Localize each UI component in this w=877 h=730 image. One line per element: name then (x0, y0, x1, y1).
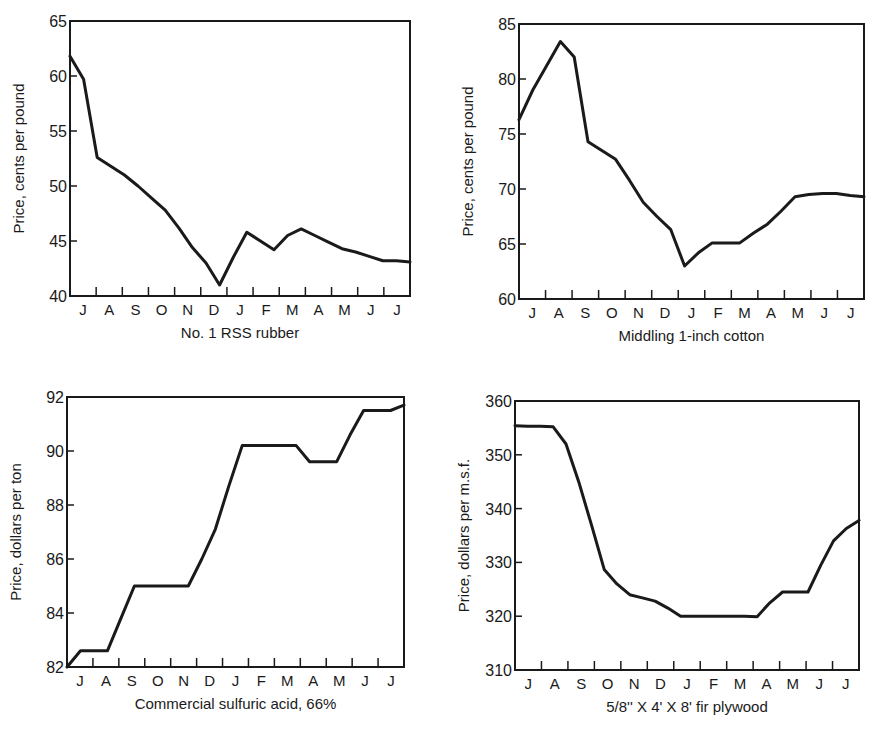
x-tick-label: O (602, 675, 614, 692)
price-line (515, 426, 859, 617)
x-tick-label: J (816, 675, 824, 692)
chart-group: JASONDJFMAMJJ310320330340350360Price, do… (455, 393, 859, 715)
y-axis-label: Price, dollars per m.s.f. (455, 459, 472, 612)
x-tick-label: J (683, 675, 691, 692)
chart-title: 5/8'' X 4' X 8' fir plywood (606, 698, 768, 715)
x-tick-label: D (655, 675, 666, 692)
y-tick-label: 340 (485, 501, 512, 518)
chart-plywood: JASONDJFMAMJJ310320330340350360Price, do… (0, 0, 877, 730)
x-tick-label: S (576, 675, 586, 692)
x-tick-label: N (629, 675, 640, 692)
y-tick-label: 320 (485, 608, 512, 625)
x-tick-label: F (709, 675, 718, 692)
plot-frame (515, 401, 859, 670)
x-tick-label: M (787, 675, 800, 692)
x-tick-label: A (761, 675, 771, 692)
x-tick-label: J (524, 675, 532, 692)
x-tick-label: J (842, 675, 850, 692)
x-tick-label: M (734, 675, 747, 692)
y-tick-label: 350 (485, 447, 512, 464)
y-tick-label: 330 (485, 554, 512, 571)
y-tick-label: 360 (485, 393, 512, 410)
x-tick-label: A (550, 675, 560, 692)
y-tick-label: 310 (485, 662, 512, 679)
